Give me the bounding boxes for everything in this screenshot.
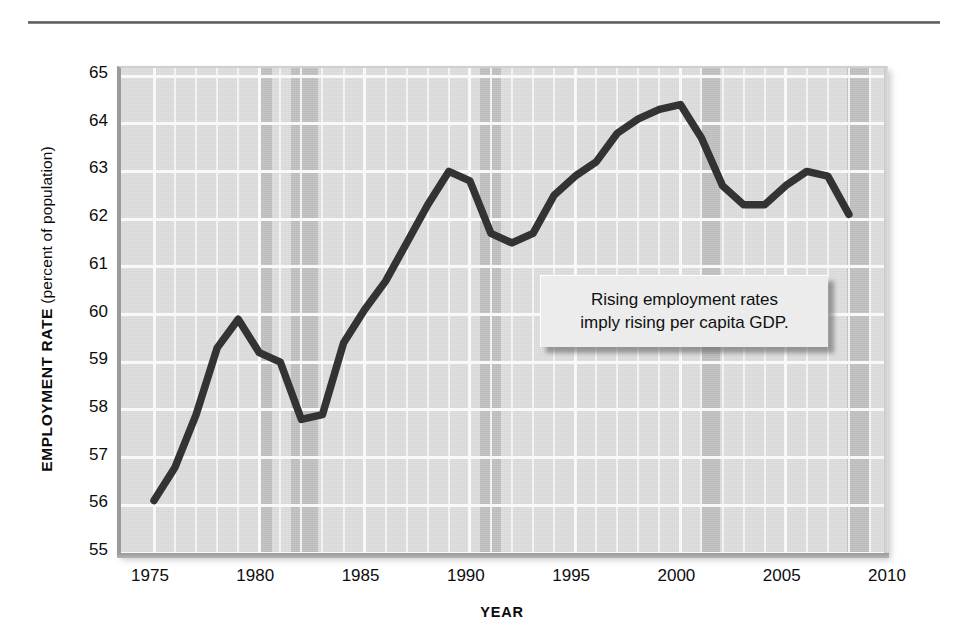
y-axis-tick-label: 61 [68, 254, 108, 274]
x-axis-tick-label: 1975 [115, 566, 185, 586]
y-axis-tick-label: 62 [68, 206, 108, 226]
x-axis-tick-label: 1995 [536, 566, 606, 586]
y-axis-tick-label: 58 [68, 397, 108, 417]
y-axis-title: EMPLOYMENT RATE (percent of population) [38, 74, 56, 544]
top-divider-rule [28, 21, 940, 24]
annotation-callout: Rising employment rates imply rising per… [540, 275, 828, 347]
x-axis-tick-label: 2005 [747, 566, 817, 586]
y-axis-tick-label: 60 [68, 302, 108, 322]
x-axis-tick-label: 1990 [431, 566, 501, 586]
y-axis-tick-label: 56 [68, 492, 108, 512]
y-axis-tick-label: 55 [68, 540, 108, 560]
x-axis-tick-label: 1985 [326, 566, 396, 586]
y-axis-tick-label: 57 [68, 445, 108, 465]
y-axis-tick-label: 64 [68, 111, 108, 131]
annotation-line-1: Rising employment rates [591, 290, 778, 309]
chart-figure: EMPLOYMENT RATE (percent of population) … [0, 0, 958, 640]
y-axis-title-bold: EMPLOYMENT RATE [38, 308, 55, 472]
y-axis-tick-label: 63 [68, 158, 108, 178]
x-axis-tick-label: 2010 [852, 566, 922, 586]
y-axis-title-paren: (percent of population) [38, 146, 55, 308]
x-axis-title: YEAR [117, 604, 887, 620]
y-axis-tick-label: 59 [68, 349, 108, 369]
plot-right-edge [884, 66, 888, 558]
x-axis-tick-label: 1980 [220, 566, 290, 586]
plot-bottom-edge [117, 553, 889, 558]
x-axis-tick-label: 2000 [641, 566, 711, 586]
annotation-line-2: imply rising per capita GDP. [580, 313, 789, 332]
y-axis-ticks: 5556575859606162636465 [62, 0, 108, 640]
y-axis-tick-label: 65 [68, 63, 108, 83]
